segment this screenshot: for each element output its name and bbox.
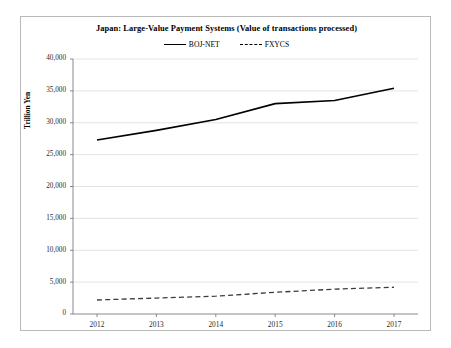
x-axis-tick-label: 2017 [371, 321, 417, 328]
plot-area: Trillion Yen 05,00010,00015,00020,00025,… [21, 17, 432, 332]
y-axis-tick-label: 40,000 [26, 55, 66, 62]
gridlines [73, 59, 418, 282]
y-axis-tick-label: 10,000 [26, 247, 66, 254]
y-axis-tick-label: 5,000 [26, 279, 66, 286]
chart-svg [21, 17, 432, 332]
y-axis-ticks [70, 59, 73, 314]
x-axis-tick-label: 2016 [312, 321, 358, 328]
series-line-fxycs [97, 287, 394, 300]
x-axis-ticks [97, 314, 394, 317]
y-axis-tick-label: 20,000 [26, 183, 66, 190]
y-axis-tick-label: 25,000 [26, 151, 66, 158]
x-axis-tick-label: 2015 [252, 321, 298, 328]
y-axis-tick-label: 30,000 [26, 119, 66, 126]
y-axis-tick-label: 35,000 [26, 87, 66, 94]
y-axis-tick-label: 0 [26, 310, 66, 317]
data-series-layer [97, 88, 394, 300]
y-axis-tick-label: 15,000 [26, 215, 66, 222]
x-axis-tick-label: 2012 [74, 321, 120, 328]
x-axis-tick-label: 2014 [193, 321, 239, 328]
chart-container: Japan: Large-Value Payment Systems (Valu… [20, 16, 431, 331]
series-line-boj-net [97, 88, 394, 140]
x-axis-tick-label: 2013 [133, 321, 179, 328]
